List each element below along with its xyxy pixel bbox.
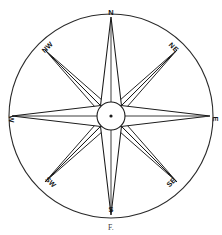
- compass-label-n: N: [108, 8, 114, 17]
- compass-label-ne: NE: [167, 41, 180, 54]
- compass-label-se: SE: [165, 176, 178, 189]
- compass-label-s: S: [108, 205, 113, 214]
- figure-caption: F.: [108, 223, 114, 232]
- compass-label-sw: SW: [43, 176, 57, 190]
- compass-label-e: E: [211, 116, 220, 121]
- compass-center-dot: [109, 114, 112, 117]
- compass-label-w: W: [7, 115, 16, 122]
- compass-rose-figure: N NE E SE S SW W NW F.: [0, 0, 222, 235]
- compass-label-nw: NW: [40, 40, 54, 54]
- compass-rose-diagram: N NE E SE S SW W NW F.: [0, 0, 222, 235]
